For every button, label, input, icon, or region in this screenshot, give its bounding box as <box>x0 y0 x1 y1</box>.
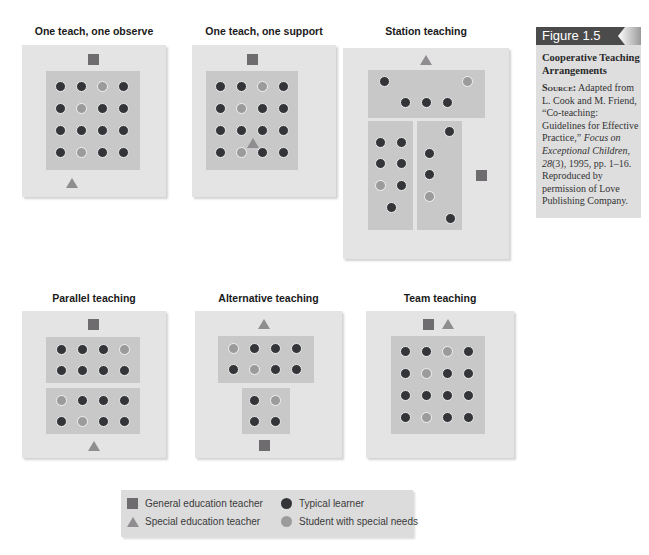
general-teacher-square-icon <box>88 54 99 65</box>
special-teacher-triangle-icon <box>442 319 454 329</box>
figure-label: Figure 1.5 <box>536 27 618 45</box>
panel-title-parallel-teaching: Parallel teaching <box>22 292 166 304</box>
typical-learner-dot <box>396 180 407 191</box>
typical-learner-dot <box>55 147 66 158</box>
station-bottom-right <box>417 121 462 230</box>
legend-label: Special education teacher <box>145 516 260 527</box>
typical-learner-dot <box>56 365 67 376</box>
typical-learner-dot <box>98 365 109 376</box>
typical-learner-dot <box>442 97 453 108</box>
typical-learner-dot <box>442 390 453 401</box>
typical-learner-dot <box>97 125 108 136</box>
typical-learner-dot <box>400 97 411 108</box>
typical-learner-dot <box>396 137 407 148</box>
typical-learner-dot <box>444 126 455 137</box>
typical-learner-dot <box>379 76 390 87</box>
special-needs-dot <box>462 76 473 87</box>
special-needs-dot <box>236 147 247 158</box>
legend-label: Typical learner <box>299 498 364 509</box>
legend-label: Student with special needs <box>299 516 418 527</box>
typical-learner-dot <box>118 147 129 158</box>
typical-learner-dot <box>421 346 432 357</box>
station-top <box>368 70 485 118</box>
special-needs-dot <box>442 346 453 357</box>
special-needs-dot <box>228 343 239 354</box>
panel-title-one-teach-one-support: One teach, one support <box>192 25 336 37</box>
typical-learner-dot <box>400 346 411 357</box>
typical-learner-dot <box>421 97 432 108</box>
special-needs-dot <box>76 103 87 114</box>
special-needs-dot <box>257 81 268 92</box>
general-teacher-square-icon <box>423 319 434 330</box>
typical-learner-dot <box>55 81 66 92</box>
typical-learner-dot <box>386 202 397 213</box>
typical-learner-dot <box>228 364 239 375</box>
special-needs-dot <box>421 368 432 379</box>
general-teacher-square-icon <box>247 54 258 65</box>
student-group-large <box>218 336 314 383</box>
typical-learner-dot <box>249 416 260 427</box>
student-group <box>46 71 140 170</box>
typical-learner-dot <box>278 147 289 158</box>
general-teacher-square-icon <box>88 319 99 330</box>
typical-learner-dot <box>119 365 130 376</box>
legend: General education teacher Special educat… <box>121 490 413 537</box>
typical-learner-dot <box>55 103 66 114</box>
special-needs-dot <box>249 364 260 375</box>
typical-learner-dot <box>257 125 268 136</box>
source-label: Source: <box>542 82 576 93</box>
typical-learner-dot <box>215 81 226 92</box>
typical-learner-dot <box>55 125 66 136</box>
legend-typical-learner: Typical learner <box>281 498 364 509</box>
figure-source: Source: Adapted from L. Cook and M. Frie… <box>542 82 641 208</box>
typical-learner-dot <box>249 395 260 406</box>
special-needs-dot <box>375 180 386 191</box>
typical-learner-dot <box>270 416 281 427</box>
special-teacher-triangle-icon <box>258 319 270 329</box>
student-group-small <box>242 388 290 434</box>
panel-title-station-teaching: Station teaching <box>343 25 509 37</box>
special-teacher-triangle-icon <box>247 138 259 148</box>
special-teacher-triangle-icon <box>420 55 432 65</box>
typical-learner-dot <box>270 343 281 354</box>
typical-learner-dot <box>215 103 226 114</box>
typical-learner-dot <box>442 412 453 423</box>
special-teacher-triangle-icon <box>66 178 78 188</box>
typical-learner-dot <box>270 364 281 375</box>
typical-learner-dot <box>118 103 129 114</box>
panel-title-team-teaching: Team teaching <box>366 292 514 304</box>
typical-learner-dot <box>400 412 411 423</box>
typical-learner-dot <box>98 344 109 355</box>
panel-one-teach-one-observe <box>22 45 166 197</box>
typical-learner-dot <box>118 81 129 92</box>
typical-learner-dot <box>56 416 67 427</box>
special-needs-dot <box>97 81 108 92</box>
legend-general-teacher: General education teacher <box>127 498 263 509</box>
typical-learner-dot <box>463 346 474 357</box>
typical-learner-dot <box>257 147 268 158</box>
typical-learner-dot <box>215 147 226 158</box>
special-needs-dot <box>119 344 130 355</box>
typical-learner-dot <box>98 416 109 427</box>
special-needs-dot-icon <box>281 516 292 527</box>
special-needs-dot <box>270 395 281 406</box>
general-teacher-square-icon <box>476 170 487 181</box>
typical-learner-dot <box>400 390 411 401</box>
special-teacher-triangle-icon <box>88 441 100 451</box>
figure-label-tab-decoration <box>618 27 641 45</box>
typical-learner-dot <box>278 103 289 114</box>
special-needs-dot <box>56 395 67 406</box>
typical-learner-dot <box>76 125 87 136</box>
typical-learner-dot <box>77 395 88 406</box>
special-teacher-triangle-icon <box>127 517 139 527</box>
legend-special-teacher: Special education teacher <box>127 516 260 527</box>
typical-learner-dot-icon <box>281 498 292 509</box>
typical-learner-dot <box>249 343 260 354</box>
panel-parallel-teaching <box>22 311 166 458</box>
typical-learner-dot <box>257 103 268 114</box>
typical-learner-dot <box>442 368 453 379</box>
typical-learner-dot <box>236 81 247 92</box>
panel-title-one-teach-one-observe: One teach, one observe <box>22 25 166 37</box>
panel-alternative-teaching <box>195 311 342 458</box>
typical-learner-dot <box>375 158 386 169</box>
